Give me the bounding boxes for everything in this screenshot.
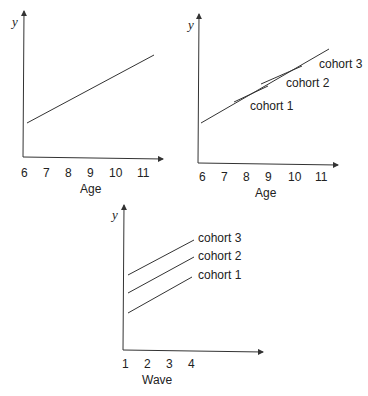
- panel-bottom: y cohort 3 cohort 2 cohort 1 1 2 3 4 Wav…: [110, 205, 263, 387]
- tick-label: 4: [188, 357, 195, 371]
- tick-label: 8: [243, 170, 250, 184]
- x-axis: [123, 350, 263, 352]
- cohort-2-line: [128, 257, 194, 293]
- x-axis: [198, 163, 338, 165]
- cohort-1-line: [128, 277, 192, 313]
- x-axis-label: Age: [80, 182, 102, 196]
- tick-label: 3: [166, 357, 173, 371]
- x-axis-label: Wave: [142, 373, 173, 387]
- tick-label: 11: [137, 166, 150, 180]
- panel-top-right: y cohort 3 cohort 2 cohort 1 6 7 8 9 10 …: [186, 14, 363, 200]
- x-axis-label: Age: [255, 186, 277, 200]
- y-axis: [198, 14, 199, 163]
- y-axis: [23, 11, 24, 157]
- tick-label: 10: [288, 170, 302, 184]
- trajectory-line: [27, 55, 154, 123]
- cohort-2-label: cohort 2: [198, 249, 242, 263]
- y-axis-label: y: [10, 14, 18, 29]
- tick-label: 10: [109, 166, 123, 180]
- tick-label: 9: [87, 166, 94, 180]
- panel-top-left: y 6 7 8 9 10 11 Age: [10, 11, 163, 196]
- cohort-3-label: cohort 3: [319, 57, 363, 71]
- cohort-3-label: cohort 3: [198, 231, 242, 245]
- tick-label: 1: [122, 357, 129, 371]
- tick-label: 6: [199, 170, 206, 184]
- tick-label: 7: [43, 166, 50, 180]
- tick-label: 11: [315, 170, 328, 184]
- cohort-3-line: [128, 240, 194, 275]
- y-axis-label: y: [110, 207, 118, 222]
- tick-label: 8: [65, 166, 72, 180]
- x-axis: [23, 157, 163, 159]
- figure-canvas: y 6 7 8 9 10 11 Age y cohort 3 cohort 2 …: [0, 0, 368, 396]
- tick-label: 2: [144, 357, 151, 371]
- tick-label: 7: [221, 170, 228, 184]
- y-axis-label: y: [186, 17, 194, 32]
- tick-label: 9: [265, 170, 272, 184]
- tick-label: 6: [21, 166, 28, 180]
- y-axis: [123, 205, 124, 350]
- cohort-2-label: cohort 2: [286, 76, 330, 90]
- cohort-1-label: cohort 1: [198, 268, 242, 282]
- cohort-1-label: cohort 1: [250, 99, 294, 113]
